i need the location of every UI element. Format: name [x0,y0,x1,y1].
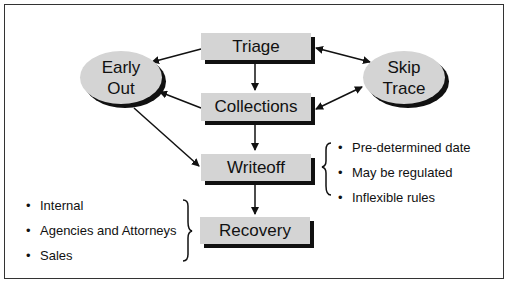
node-early-out: EarlyOut [80,51,162,104]
node-label: Out [107,79,134,98]
node-label: Skip [387,58,420,77]
node-skip-trace: SkipTrace [363,51,445,104]
note-item: Agencies and Attorneys [26,218,177,243]
note-item: Internal [26,193,177,218]
note-item: May be regulated [338,160,471,185]
node-collections: Collections [201,93,311,121]
note-item: Inflexible rules [338,185,471,210]
node-triage: Triage [201,33,311,60]
writeoff-notes: Pre-determined date May be regulated Inf… [338,135,471,210]
node-label: Trace [383,79,426,98]
node-writeoff: Writeoff [201,154,311,181]
recovery-notes: Internal Agencies and Attorneys Sales [26,193,177,268]
node-label: Early [102,58,141,77]
note-item: Sales [26,243,177,268]
node-recovery: Recovery [200,217,310,244]
note-item: Pre-determined date [338,135,471,160]
